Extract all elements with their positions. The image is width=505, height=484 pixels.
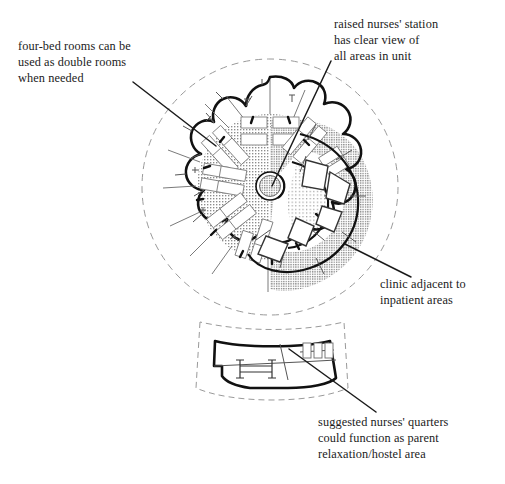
nurses-station — [256, 172, 284, 200]
leader-four-bed — [133, 82, 216, 146]
callout-raised-nurses-station: raised nurses' station has clear view of… — [334, 16, 438, 65]
leader-clinic — [345, 244, 411, 277]
nurses-quarters-pavilion — [196, 322, 348, 400]
callout-suggested-nurses-quarters: suggested nurses' quarters could functio… — [318, 414, 449, 463]
callout-four-bed-rooms: four-bed rooms can be used as double roo… — [18, 38, 131, 87]
callout-clinic-adjacent: clinic adjacent to inpatient areas — [380, 276, 466, 308]
